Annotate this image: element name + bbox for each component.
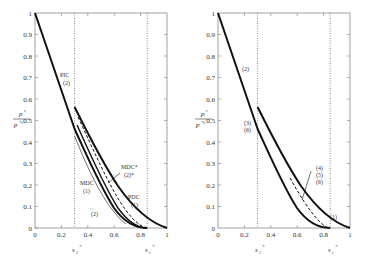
svg-text:1: 1 [259,250,261,255]
x-tick-label: 0.6 [293,231,302,239]
right-curve-2 [218,13,330,228]
x-tick-label: 0.4 [83,231,92,239]
y-tick-label: 0.9 [206,31,215,39]
svg-text:r: r [24,108,26,113]
svg-text:(2)*: (2)* [124,172,134,179]
left-s1-label: s 1 * [72,244,82,255]
right-y-tick-labels: 0 0.1 0.2 0.3 0.4 0.5 0.6 0.7 0.8 0.9 1 [206,10,215,233]
y-tick-label: 0.5 [206,117,215,125]
x-tick-label: 0.2 [240,231,249,239]
left-sr-label: s r * [145,244,155,255]
svg-text:(2): (2) [91,211,98,218]
y-tick-label: 1 [212,10,216,18]
svg-text:p: p [200,110,205,118]
y-tick-label: 0.8 [23,53,32,61]
svg-text:s: s [255,246,258,254]
svg-text:p: p [195,121,200,129]
svg-text:(3): (3) [244,120,251,127]
svg-text:(6): (6) [316,179,323,186]
y-tick-label: 0 [212,225,216,233]
left-x-tick-labels: 0 0.2 0.4 0.6 0.8 1 [33,231,169,239]
y-tick-label: 0.1 [206,203,215,211]
svg-text:s: s [72,246,75,254]
x-tick-label: 1 [348,231,352,239]
y-tick-label: 0.8 [206,53,215,61]
svg-text:(1): (1) [131,202,138,209]
left-annotations: PIC (2) MDC* (2)* MDC (1) PDC (1) ~~~ (2… [60,72,140,218]
right-x-tick-labels: 0 0.2 0.4 0.6 0.8 1 [216,231,352,239]
x-tick-label: 0.2 [57,231,66,239]
x-tick-label: 0.8 [319,231,328,239]
svg-text:*r: *r [201,120,206,125]
y-tick-label: 0.4 [23,139,32,147]
right-panel: 0 0.1 0.2 0.3 0.4 0.5 0.6 0.7 0.8 0.9 1 … [195,10,352,256]
y-tick-label: 0.2 [206,182,215,190]
svg-text:r: r [149,250,151,255]
right-annotations: (2) (3) (6) (4) (5) (6) (1) [242,66,337,221]
y-tick-label: 0.7 [206,74,215,82]
y-tick-label: 0.6 [23,96,32,104]
y-tick-label: 0.4 [206,139,215,147]
svg-text:s: s [145,246,148,254]
y-tick-label: 0.5 [23,117,32,125]
x-tick-label: 0 [216,231,220,239]
svg-text:s: s [328,246,331,254]
left-y-tick-labels: 0 0.1 0.2 0.3 0.4 0.5 0.6 0.7 0.8 0.9 1 [23,10,32,233]
svg-text:r: r [332,250,334,255]
y-tick-label: 0.9 [23,31,32,39]
y-tick-label: 0 [29,225,33,233]
y-tick-label: 0.3 [206,160,215,168]
svg-text:p: p [18,110,23,118]
label-pic: PIC [60,72,69,78]
right-x-ticks [244,13,323,228]
svg-text:r: r [206,108,208,113]
svg-text:(4): (4) [316,165,323,172]
right-sr-label: s r * [328,244,338,255]
right-s1-label: s 1 * [255,244,265,255]
svg-text:(5): (5) [316,172,323,179]
figure: 0 0.1 0.2 0.3 0.4 0.5 0.6 0.7 0.8 0.9 1 … [0,0,366,261]
svg-text:(2): (2) [242,66,249,73]
right-curve-1 [258,107,350,228]
svg-text:(6): (6) [244,127,251,134]
svg-text:*: * [335,244,338,249]
x-tick-label: 0.6 [110,231,119,239]
svg-text:*: * [79,244,82,249]
y-tick-label: 0.3 [23,160,32,168]
svg-text:p: p [13,121,18,129]
y-tick-label: 0.6 [206,96,215,104]
svg-text:(2): (2) [63,80,70,87]
x-tick-label: 1 [165,231,169,239]
label-mdc-star: MDC* [121,164,138,170]
x-tick-label: 0.8 [136,231,145,239]
svg-text:(1): (1) [83,188,90,195]
y-tick-label: 1 [29,10,33,18]
svg-text:*: * [262,244,265,249]
svg-text:*r: *r [19,120,24,125]
y-tick-label: 0.7 [23,74,32,82]
right-pointer [302,171,311,200]
x-tick-label: 0 [33,231,37,239]
x-tick-label: 0.4 [266,231,275,239]
label-pdc: PDC [128,194,140,200]
y-tick-label: 0.1 [23,203,32,211]
svg-text:(1): (1) [330,214,337,221]
left-panel: 0 0.1 0.2 0.3 0.4 0.5 0.6 0.7 0.8 0.9 1 … [13,10,169,256]
label-mdc: MDC [80,180,94,186]
svg-text:*: * [152,244,155,249]
svg-text:1: 1 [76,250,78,255]
y-tick-label: 0.2 [23,182,32,190]
